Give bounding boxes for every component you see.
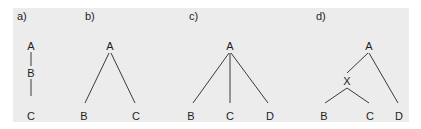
panel-b-label: b) bbox=[85, 11, 95, 22]
node-a-B: B bbox=[27, 68, 34, 79]
panel-b-edges bbox=[85, 53, 135, 103]
node-d-D: D bbox=[395, 111, 403, 122]
panel-c-label: c) bbox=[189, 11, 198, 22]
node-b-A: A bbox=[106, 41, 113, 52]
panel-d-edges bbox=[325, 53, 398, 103]
panel-d-label: d) bbox=[316, 11, 326, 22]
edge-c-A-D bbox=[231, 53, 268, 103]
node-b-C: C bbox=[132, 111, 140, 122]
node-d-A: A bbox=[365, 41, 372, 52]
edge-b-A-C bbox=[111, 53, 135, 103]
node-c-C: C bbox=[226, 111, 234, 122]
node-d-B: B bbox=[320, 111, 327, 122]
node-a-C: C bbox=[27, 111, 35, 122]
node-c-A: A bbox=[226, 41, 233, 52]
edge-d-X-B bbox=[325, 88, 347, 103]
edge-b-A-B bbox=[85, 53, 109, 103]
panel-c-edges bbox=[193, 53, 268, 103]
node-c-B: B bbox=[187, 111, 194, 122]
edge-d-A-X bbox=[347, 53, 368, 73]
panel-a-label: a) bbox=[17, 11, 27, 22]
edge-d-X-C bbox=[347, 88, 369, 103]
edge-c-A-B bbox=[193, 53, 229, 103]
node-b-B: B bbox=[80, 111, 87, 122]
node-d-X: X bbox=[343, 76, 350, 87]
edge-d-A-D bbox=[369, 53, 398, 103]
node-d-C: C bbox=[366, 111, 374, 122]
tree-diagrams bbox=[0, 0, 421, 129]
node-a-A: A bbox=[27, 41, 34, 52]
node-c-D: D bbox=[266, 111, 274, 122]
